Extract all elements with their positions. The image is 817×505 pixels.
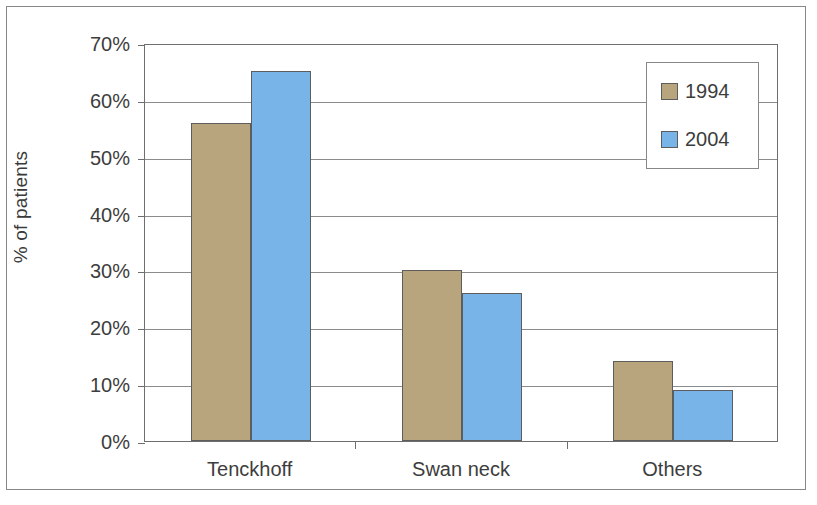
x-axis-tick-label: Swan neck xyxy=(355,458,566,481)
y-axis-tick-mark xyxy=(138,159,145,160)
x-axis-tick-mark xyxy=(355,442,356,449)
y-axis-tick-mark xyxy=(138,272,145,273)
y-axis-tick-mark xyxy=(138,443,145,444)
y-axis-tick-label: 40% xyxy=(0,203,130,226)
bar-2004-tenckhoff xyxy=(251,71,311,441)
y-axis-tick-mark xyxy=(138,216,145,217)
y-axis-tick-label: 60% xyxy=(0,89,130,112)
bar-2004-others xyxy=(673,390,733,441)
y-axis-tick-label: 30% xyxy=(0,260,130,283)
bar-group xyxy=(402,45,522,441)
y-axis-tick-label: 70% xyxy=(0,33,130,56)
chart-legend: 19942004 xyxy=(646,62,759,169)
y-axis-tick-mark xyxy=(138,329,145,330)
y-axis-tick-mark xyxy=(138,45,145,46)
bar-1994-others xyxy=(613,361,673,441)
y-axis-tick-label: 50% xyxy=(0,146,130,169)
bar-2004-swan-neck xyxy=(462,293,522,441)
legend-swatch-icon xyxy=(661,83,678,100)
legend-label: 2004 xyxy=(685,129,730,149)
x-axis-tick-label: Tenckhoff xyxy=(144,458,355,481)
y-axis-tick-mark xyxy=(138,102,145,103)
x-axis-tick-mark xyxy=(567,442,568,449)
grouped-bar-chart: % of patients 0%10%20%30%40%50%60%70% Te… xyxy=(0,0,817,505)
x-axis-tick-label: Others xyxy=(567,458,778,481)
y-axis-tick-label: 0% xyxy=(0,431,130,454)
bar-group xyxy=(191,45,311,441)
bar-1994-swan-neck xyxy=(402,270,462,441)
legend-swatch-icon xyxy=(661,131,678,148)
bar-1994-tenckhoff xyxy=(191,123,251,441)
y-axis-tick-label: 20% xyxy=(0,317,130,340)
y-axis-tick-label: 10% xyxy=(0,374,130,397)
legend-entry-1994: 1994 xyxy=(661,81,730,101)
legend-label: 1994 xyxy=(685,81,730,101)
legend-entry-2004: 2004 xyxy=(661,129,730,149)
y-axis-tick-mark xyxy=(138,386,145,387)
